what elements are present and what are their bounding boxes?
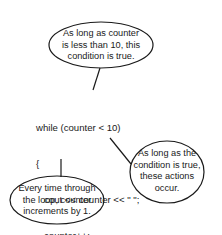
loop-diagram: As long as counter is less than 10, this… — [0, 0, 222, 235]
callout-line: Every time through — [10, 183, 104, 195]
code-line-while: while (counter < 10) — [36, 122, 139, 134]
callout-line: occur. — [130, 183, 204, 195]
callout-line: is less than 10, this — [49, 40, 153, 52]
callout-line: increments by 1. — [10, 206, 104, 218]
callout-line: these actions — [130, 171, 204, 183]
condition-callout-text: As long as counter is less than 10, this… — [49, 28, 153, 63]
increment-callout-text: Every time through the loop, counter inc… — [10, 183, 104, 218]
code-line-open-brace: { — [36, 158, 139, 170]
condition-pointer-line — [93, 68, 100, 90]
callout-line: As long as the — [130, 148, 204, 160]
callout-line: condition is true. — [49, 51, 153, 63]
actions-callout-text: As long as the condition is true, these … — [130, 148, 204, 194]
code-line-increment: counter++; — [36, 230, 139, 235]
callout-line: condition is true, — [130, 160, 204, 172]
callout-line: As long as counter — [49, 28, 153, 40]
callout-line: the loop, counter — [10, 195, 104, 207]
